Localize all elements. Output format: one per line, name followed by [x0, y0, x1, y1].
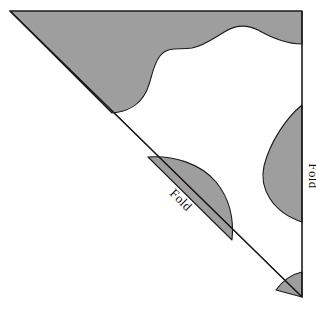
right-fold-label: Fold	[306, 163, 316, 189]
right-fold-label-text: Fold	[306, 163, 316, 189]
fold-diagram-figure: Fold Fold	[0, 0, 316, 310]
fold-diagram-svg: Fold Fold	[0, 0, 316, 310]
